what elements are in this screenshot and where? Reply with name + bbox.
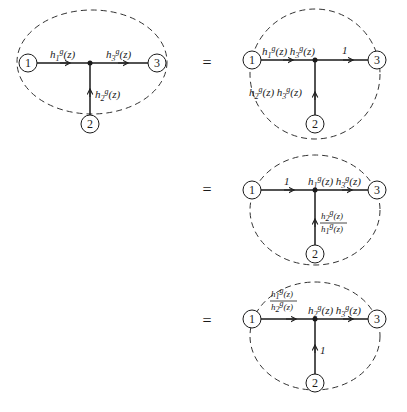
node-2: 2 [81,115,99,133]
svg-text:3: 3 [374,183,380,197]
junction-dot [88,61,93,66]
node-3: 3 [148,54,166,72]
equals-sign-1: = [202,54,211,71]
edge-label-fraction-h1-over-h2: h1g(z) h2g(z) [270,286,297,314]
equals-sign-3: = [202,312,211,329]
node-2: 2 [306,245,324,263]
edge-label-one: 1 [284,175,290,187]
node-2: 2 [306,115,324,133]
node-1: 1 [243,181,261,199]
svg-text:3: 3 [374,312,380,326]
diagram-equivalent-b: 1 3 2 1 h1g(z) h3g(z) h2g(z) h1g(z) [243,155,386,265]
edge-label-h1h3: h1g(z) h3g(z) [262,44,315,60]
svg-text:1: 1 [249,312,255,326]
svg-text:2: 2 [312,376,318,390]
node-2: 2 [306,374,324,392]
edge-label-h2: h2g(z) [95,87,120,103]
edge-label-one: 1 [342,44,348,56]
diagram-equivalent-a: 1 3 2 h1g(z) h3g(z) 1 h2g(z) h3g(z) [243,9,386,139]
node-3: 3 [368,310,386,328]
svg-text:2: 2 [87,117,93,131]
svg-text:1: 1 [249,53,255,67]
edge-label-h1: h1g(z) [50,47,75,63]
svg-text:1: 1 [25,56,31,70]
node-1: 1 [19,54,37,72]
node-3: 3 [368,51,386,69]
node-3: 3 [368,181,386,199]
svg-text:3: 3 [154,56,160,70]
diagram-original: 1 3 2 h1g(z) h3g(z) h2g(z) [17,10,167,133]
diagram-equivalent-c: 1 3 2 h1g(z) h2g(z) h2g(z) h3g(z) 1 [243,282,386,392]
node-1: 1 [243,310,261,328]
svg-text:2: 2 [312,117,318,131]
signal-flow-diagrams: 1 3 2 h1g(z) h3g(z) h2g(z) = 1 3 2 h1g(z… [0,0,407,412]
edge-label-one: 1 [320,344,326,356]
svg-text:2: 2 [312,247,318,261]
edge-label-h2h3: h2g(z) h3g(z) [249,85,302,101]
edge-label-h3: h3g(z) [106,47,131,63]
edge-label-h1h3: h1g(z) h3g(z) [308,174,361,190]
svg-text:h1g(z): h1g(z) [321,221,343,236]
edge-label-h2h3: h2g(z) h3g(z) [308,303,361,319]
svg-text:1: 1 [249,183,255,197]
equals-sign-2: = [202,181,211,198]
node-1: 1 [243,51,261,69]
edge-label-fraction-h2-over-h1: h2g(z) h1g(z) [320,208,347,236]
svg-text:h2g(z): h2g(z) [271,299,293,314]
svg-text:3: 3 [374,53,380,67]
